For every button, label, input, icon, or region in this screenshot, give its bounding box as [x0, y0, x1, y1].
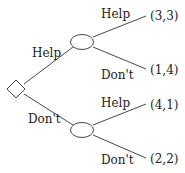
payoff-dont-dont: (2,2)	[150, 152, 178, 166]
upper-decision-node	[71, 35, 94, 50]
lower-decision-node	[71, 123, 94, 138]
edge-upper-dont	[93, 47, 146, 69]
game-tree-diagram: Help Don't Help Don't Help Don't (3,3) (…	[0, 0, 185, 173]
root-help-label: Help	[32, 46, 61, 60]
root-dont-label: Don't	[28, 112, 61, 126]
upper-dont-label: Don't	[101, 68, 134, 82]
lower-dont-label: Don't	[101, 153, 134, 167]
payoff-dont-help: (4,1)	[150, 98, 178, 112]
payoff-help-help: (3,3)	[150, 9, 178, 23]
root-decision-node	[7, 80, 25, 98]
upper-help-label: Help	[101, 7, 130, 21]
lower-help-label: Help	[101, 96, 130, 110]
payoff-help-dont: (1,4)	[150, 63, 178, 77]
